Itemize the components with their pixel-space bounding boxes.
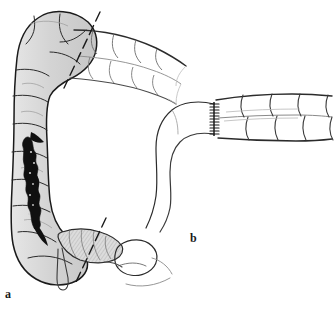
colon-middle-band	[218, 115, 332, 118]
colon-haustra-top	[241, 94, 329, 117]
colon-top-border	[216, 94, 332, 100]
ileum-curve-hint	[172, 110, 178, 134]
anastomosis-suture-line	[210, 102, 219, 136]
colon-haustra-bottom	[246, 116, 333, 140]
figure-container: a b	[0, 0, 335, 313]
colon-remnant	[216, 94, 333, 141]
ileum-distal-tail-lower	[126, 278, 170, 286]
ileum-remnant	[146, 102, 214, 232]
illustration-canvas	[0, 0, 335, 313]
ileum-inner-border	[160, 133, 214, 232]
ileum-outer-border	[146, 102, 214, 228]
panel-b-group	[146, 94, 333, 232]
panel-label-a: a	[5, 288, 11, 300]
transverse-distal-fade	[168, 66, 186, 105]
colon-bottom-border	[218, 138, 332, 141]
transverse-lower-border	[70, 78, 176, 104]
panel-a-group	[11, 12, 186, 290]
ileum-proximal-stub	[104, 262, 122, 267]
transverse-haustra-bottom	[88, 57, 158, 95]
panel-label-b: b	[190, 232, 197, 244]
ileum-inner-crease	[118, 263, 146, 266]
